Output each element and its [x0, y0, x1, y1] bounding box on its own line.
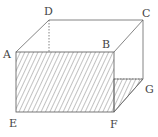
label-E: E: [9, 117, 17, 130]
edge-BC: [114, 20, 143, 52]
label-C: C: [142, 7, 150, 20]
cuboid-diagram: D C A B G E F: [0, 0, 158, 137]
label-F: F: [110, 118, 118, 131]
edge-AD: [16, 20, 49, 52]
shaded-front-face: [16, 52, 114, 112]
label-B: B: [102, 38, 110, 51]
label-G: G: [145, 83, 154, 96]
label-A: A: [2, 48, 12, 61]
label-D: D: [44, 5, 53, 18]
